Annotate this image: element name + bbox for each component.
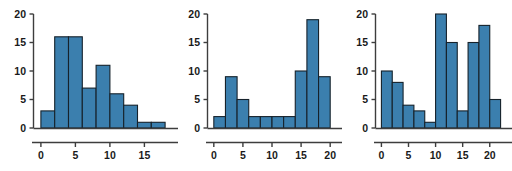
x-axis-tick-label: 20 [484, 149, 496, 161]
x-axis-tick-label: 10 [104, 149, 116, 161]
histogram-panel-2: 0510152005101520 [178, 0, 346, 171]
histogram-bar [381, 71, 392, 128]
histogram-bar [124, 105, 138, 128]
x-axis-tick-label: 0 [38, 149, 44, 161]
histogram-bar [96, 65, 110, 128]
y-axis-tick-label: 15 [188, 36, 200, 48]
histogram-bar [403, 105, 414, 128]
y-axis-tick-label: 10 [188, 65, 200, 77]
histogram-bar [490, 100, 501, 129]
histogram-bar [479, 25, 490, 128]
x-axis-tick-label: 5 [406, 149, 412, 161]
histogram-bar [110, 94, 124, 128]
y-axis-tick-label: 0 [20, 122, 26, 134]
y-axis-tick-label: 5 [194, 93, 200, 105]
histogram-bar [249, 117, 261, 128]
histogram-bar [69, 37, 83, 128]
x-axis-tick-label: 5 [240, 149, 246, 161]
x-axis-tick-label: 15 [295, 149, 307, 161]
y-axis-tick-label: 0 [362, 122, 368, 134]
y-axis-tick-label: 20 [14, 8, 26, 20]
y-axis-tick-label: 5 [362, 93, 368, 105]
x-axis-tick-label: 20 [324, 149, 336, 161]
bar-series [41, 37, 165, 128]
histogram-bar [446, 43, 457, 129]
y-axis-tick-label: 15 [14, 36, 26, 48]
x-axis-tick-label: 5 [72, 149, 78, 161]
histogram-bar [307, 20, 319, 128]
histogram-bar [272, 117, 284, 128]
x-axis-tick-label: 15 [457, 149, 469, 161]
histogram-bar [260, 117, 272, 128]
histogram-bar [151, 122, 165, 128]
histogram-bar [414, 111, 425, 128]
histogram-bar [55, 37, 69, 128]
histogram-plot: 0510152005101520 [346, 0, 512, 171]
histogram-plot: 05101520051015 [0, 0, 178, 171]
histogram-bar [41, 111, 55, 128]
x-axis-tick-label: 10 [430, 149, 442, 161]
histogram-bar [138, 122, 152, 128]
histogram-plot: 0510152005101520 [178, 0, 346, 171]
histogram-figure: 05101520051015 0510152005101520 05101520… [0, 0, 512, 171]
x-axis-tick-label: 10 [266, 149, 278, 161]
histogram-bar [392, 82, 403, 128]
histogram-bar [295, 71, 307, 128]
histogram-panel-1: 05101520051015 [0, 0, 178, 171]
histogram-bar [319, 77, 331, 128]
y-axis-tick-label: 5 [20, 93, 26, 105]
histogram-bar [284, 117, 296, 128]
y-axis-tick-label: 10 [14, 65, 26, 77]
bar-series [381, 14, 500, 128]
y-axis-tick-label: 0 [194, 122, 200, 134]
histogram-bar [436, 14, 447, 128]
x-axis-tick-label: 0 [211, 149, 217, 161]
histogram-bar [82, 88, 96, 128]
histogram-bar [457, 111, 468, 128]
histogram-panel-3: 0510152005101520 [346, 0, 512, 171]
y-axis-tick-label: 20 [188, 8, 200, 20]
histogram-bar [468, 43, 479, 129]
y-axis-tick-label: 20 [356, 8, 368, 20]
histogram-bar [237, 100, 249, 129]
histogram-bar [225, 77, 237, 128]
y-axis-tick-label: 15 [356, 36, 368, 48]
x-axis-tick-label: 15 [139, 149, 151, 161]
histogram-bar [214, 117, 226, 128]
y-axis-tick-label: 10 [356, 65, 368, 77]
x-axis-tick-label: 0 [378, 149, 384, 161]
bar-series [214, 20, 330, 128]
histogram-bar [425, 122, 436, 128]
